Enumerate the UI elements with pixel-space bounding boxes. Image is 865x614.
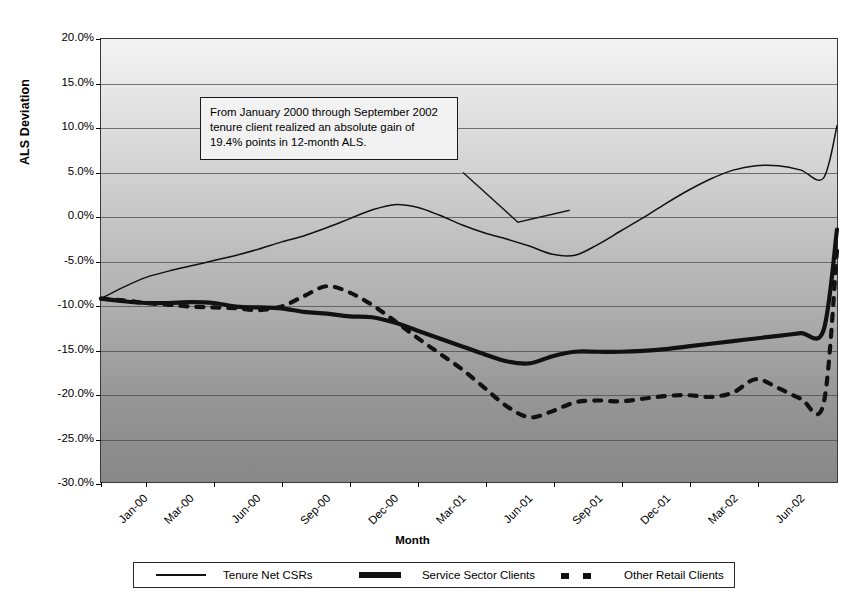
x-tick-label: Jun-02 [773, 492, 806, 525]
x-tick-mark [622, 482, 623, 487]
y-tick-label: 20.0% [30, 32, 94, 43]
x-tick-mark [758, 482, 759, 487]
x-tick-label: Mar-02 [705, 492, 739, 526]
x-tick-mark [350, 482, 351, 487]
y-tick-label: 5.0% [30, 166, 94, 177]
x-tick-mark [282, 482, 283, 487]
y-tick-label: -5.0% [30, 255, 94, 266]
y-tick-label: -25.0% [30, 433, 94, 444]
y-tick-label: -20.0% [30, 388, 94, 399]
legend-label: Tenure Net CSRs [223, 569, 312, 581]
x-tick-mark [690, 482, 691, 487]
x-tick-label: Jun-01 [501, 492, 534, 525]
x-tick-label: Sep-00 [298, 492, 333, 527]
y-tick-label: 15.0% [30, 77, 94, 88]
x-tick-mark [101, 482, 102, 487]
x-tick-label: Jun-00 [229, 492, 262, 525]
x-tick-label: Sep-01 [570, 492, 605, 527]
x-tick-mark [486, 482, 487, 487]
legend-item-service-sector-clients[interactable]: Service Sector Clients [333, 569, 535, 581]
x-tick-label: Mar-00 [162, 492, 196, 526]
x-tick-label: Dec-01 [638, 492, 673, 527]
x-tick-mark [554, 482, 555, 487]
thin-line-key-icon [148, 569, 214, 581]
x-tick-label: Dec-00 [366, 492, 401, 527]
x-axis-title-text: Month [395, 534, 429, 546]
dashed-line-key-icon [549, 569, 615, 581]
x-tick-mark [418, 482, 419, 487]
x-tick-mark [146, 482, 147, 487]
y-axis-tick-labels: 20.0%15.0%10.0%5.0%0.0%-5.0%-10.0%-15.0%… [28, 0, 94, 614]
x-tick-mark [214, 482, 215, 487]
x-axis-title: Month [0, 534, 865, 546]
legend-label: Other Retail Clients [624, 569, 724, 581]
y-tick-label: -30.0% [30, 477, 94, 488]
legend-item-other-retail-clients[interactable]: Other Retail Clients [535, 569, 734, 581]
annotation-text: From January 2000 through September 2002… [210, 106, 438, 148]
chart-container: ALS Deviation 20.0%15.0%10.0%5.0%0.0%-5.… [0, 0, 865, 614]
legend-label: Service Sector Clients [422, 569, 535, 581]
chart-legend: Tenure Net CSRs Service Sector Clients O… [133, 562, 735, 588]
x-tick-label: Mar-01 [434, 492, 468, 526]
y-tick-label: -10.0% [30, 299, 94, 310]
y-tick-label: 10.0% [30, 121, 94, 132]
legend-item-tenure-net-csrs[interactable]: Tenure Net CSRs [134, 569, 333, 581]
y-tick-label: -15.0% [30, 344, 94, 355]
y-tick-label: 0.0% [30, 210, 94, 221]
annotation-callout: From January 2000 through September 2002… [200, 97, 458, 160]
x-tick-label: Jan-00 [116, 492, 149, 525]
thick-line-key-icon [347, 569, 413, 581]
